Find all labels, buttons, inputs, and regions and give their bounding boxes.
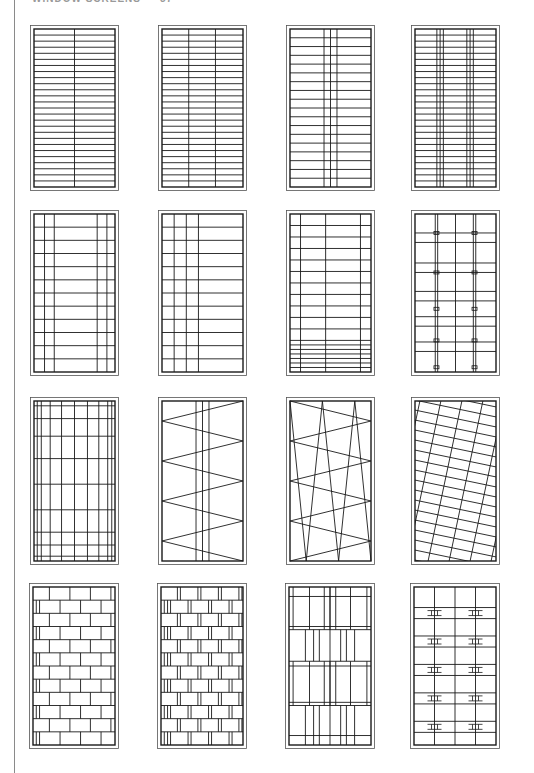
screen-panel-graded-grid xyxy=(30,397,119,565)
screen-panel-banded-mullions xyxy=(285,583,375,749)
page-number: 57 xyxy=(160,0,173,4)
screen-panel-margin-bars-left-side xyxy=(158,210,247,376)
page-title: WINDOW SCREENS xyxy=(32,0,141,4)
screen-panel-staggered-brick-double xyxy=(157,583,247,749)
screen-panel-double-zigzag xyxy=(286,397,375,565)
screen-panel-margin-bars-both-sides xyxy=(30,210,119,376)
screen-panel-staggered-brick xyxy=(29,583,119,749)
screen-panel-horizontal-bars-one-mullion xyxy=(30,25,119,191)
screen-panel-paired-bars-with-clips xyxy=(411,210,500,376)
screen-panel-horizontal-bars-two-mullions xyxy=(158,25,247,191)
screen-panel-skewed-grid xyxy=(411,397,500,565)
screen-panel-bars-dense-bottom xyxy=(286,210,375,376)
screen-panel-horizontal-bars-center-triple xyxy=(286,25,375,191)
page-margin-line xyxy=(14,0,15,773)
screen-panel-zigzag-with-triple-mullion xyxy=(158,397,247,565)
screen-panel-horizontal-bars-paired-triples xyxy=(411,25,500,191)
screen-panel-bars-with-h-clips xyxy=(410,583,500,749)
